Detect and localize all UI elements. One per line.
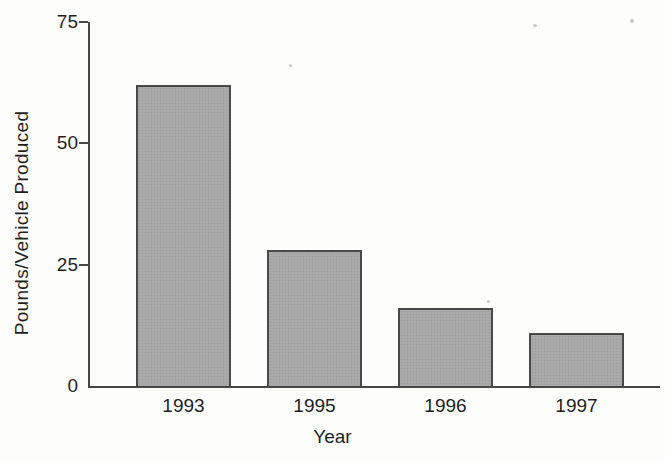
y-tick-label: 50 <box>38 133 78 153</box>
scan-speck <box>487 300 490 303</box>
y-tick-label: 0 <box>38 376 78 396</box>
bars-container: 1993199519961997 <box>90 22 660 386</box>
x-tick-label: 1993 <box>162 395 204 417</box>
bar-1993: 1993 <box>136 85 231 386</box>
y-tick-label: 75 <box>38 12 78 32</box>
plot-area: 1993199519961997 <box>88 22 660 388</box>
x-tick-label: 1995 <box>293 395 335 417</box>
y-tick-mark <box>79 21 88 23</box>
x-tick-label: 1997 <box>555 395 597 417</box>
bar-1995: 1995 <box>267 250 362 386</box>
y-tick-label: 25 <box>38 255 78 275</box>
scan-speck <box>533 24 537 27</box>
y-axis-title: Pounds/Vehicle Produced <box>11 111 33 336</box>
bar-1997: 1997 <box>529 333 624 386</box>
scan-speck <box>289 64 292 67</box>
bar-1996: 1996 <box>398 308 493 386</box>
y-tick-mark <box>79 264 88 266</box>
bar-chart-figure: Pounds/Vehicle Produced 1993199519961997… <box>0 0 665 462</box>
x-axis-title: Year <box>0 426 665 448</box>
x-tick-label: 1996 <box>424 395 466 417</box>
scan-speck <box>630 19 634 23</box>
y-tick-mark <box>79 142 88 144</box>
